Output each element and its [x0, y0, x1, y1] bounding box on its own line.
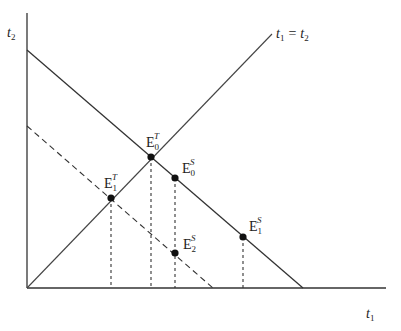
- point-e2s: [171, 249, 178, 256]
- label-e2s: E2S: [183, 233, 196, 254]
- label-e0s: E0S: [182, 157, 196, 178]
- point-e1s: [239, 233, 246, 240]
- point-e0t: [147, 153, 154, 160]
- diagonal-label: t1=t2: [276, 26, 309, 43]
- equilibrium-diagram: t2 t1 t1=t2 E0T E1T E0S E1S E2S: [0, 0, 401, 331]
- point-e0s: [171, 174, 178, 181]
- label-e0t: E0T: [146, 131, 160, 152]
- label-e1s: E1S: [249, 215, 262, 236]
- point-e1t: [107, 194, 114, 201]
- label-e1t: E1T: [104, 172, 118, 193]
- x-axis-label: t1: [366, 306, 374, 323]
- dashed-budget-line: [27, 126, 213, 288]
- solid-budget-line: [27, 50, 303, 288]
- diagonal-line: [27, 34, 272, 288]
- y-axis-label: t2: [7, 25, 15, 42]
